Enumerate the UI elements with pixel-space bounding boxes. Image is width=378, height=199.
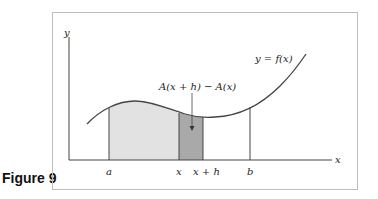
- area-strip-x-to-x-plus-h: [179, 113, 203, 160]
- tick-x-plus-h: x + h: [193, 166, 220, 177]
- integral-area-diagram: y x y = f(x) A(x + h) − A(x) a x x + h b: [0, 0, 378, 199]
- curve-label: y = f(x): [254, 53, 293, 64]
- difference-label: A(x + h) − A(x): [158, 81, 236, 92]
- y-axis-label: y: [63, 27, 70, 38]
- tick-b: b: [247, 166, 253, 177]
- figure-frame: [53, 13, 358, 190]
- tick-a: a: [106, 166, 112, 177]
- tick-x: x: [176, 166, 182, 177]
- area-a-to-x: [109, 101, 179, 160]
- x-axis-label: x: [335, 154, 341, 165]
